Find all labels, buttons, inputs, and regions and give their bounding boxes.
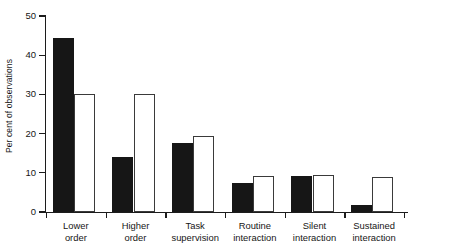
plot-area [46, 16, 404, 212]
bar-open-3 [253, 176, 274, 212]
x-axis-tick [344, 212, 345, 218]
x-axis-category-label: Sustainedinteraction [338, 220, 410, 243]
bar-filled-4 [291, 176, 312, 212]
y-axis-tick-label: 40 [10, 50, 36, 60]
y-axis-tick [39, 211, 45, 212]
x-axis-tick [225, 212, 226, 218]
bar-chart-figure: Per cent of observations 01020304050 Low… [0, 0, 451, 252]
bar-filled-2 [172, 143, 193, 212]
y-axis-tick [39, 94, 45, 95]
bar-open-0 [74, 94, 95, 212]
y-axis-tick-label: 0 [10, 207, 36, 217]
bar-filled-5 [351, 205, 372, 212]
bar-open-2 [193, 136, 214, 212]
bar-open-5 [372, 177, 393, 212]
y-axis-tick [39, 172, 45, 173]
bar-open-4 [313, 175, 334, 212]
y-axis-tick [39, 15, 45, 16]
bar-filled-0 [53, 38, 74, 212]
bar-open-1 [134, 94, 155, 212]
y-axis-tick-label: 20 [10, 129, 36, 139]
bar-filled-3 [232, 183, 253, 212]
y-axis-title: Per cent of observations [0, 0, 18, 212]
x-axis-tick [46, 212, 47, 218]
y-axis-tick-label: 10 [10, 168, 36, 178]
y-axis-tick-label: 50 [10, 11, 36, 21]
y-axis-tick-label: 30 [10, 89, 36, 99]
y-axis-tick [39, 55, 45, 56]
y-axis-tick [39, 133, 45, 134]
x-axis-tick [165, 212, 166, 218]
x-axis-tick [404, 212, 405, 218]
x-axis-tick [106, 212, 107, 218]
x-axis-tick [285, 212, 286, 218]
y-axis-title-text: Per cent of observations [4, 59, 14, 153]
bar-filled-1 [112, 157, 133, 212]
